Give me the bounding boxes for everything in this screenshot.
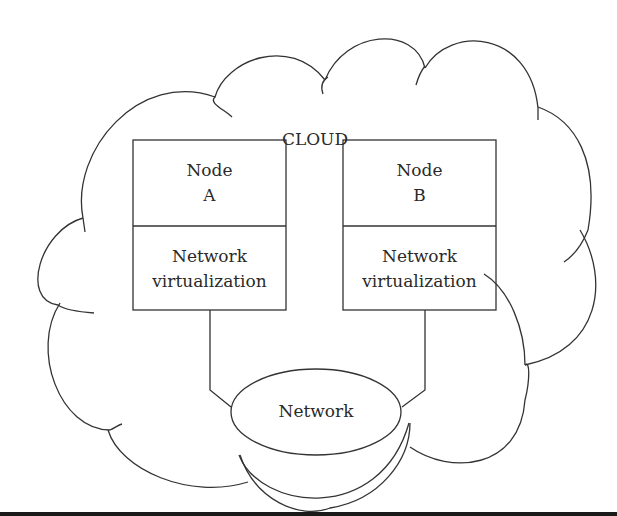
node-a-layer-line1: Network (133, 244, 286, 269)
node-a-title-line2: A (133, 183, 286, 208)
cloud-bottom-bowl (239, 423, 409, 498)
node-a-virtualization-layer: Network virtualization (133, 244, 286, 294)
node-b-title-line2: B (343, 183, 496, 208)
node-b-virtualization-layer: Network virtualization (343, 244, 496, 294)
cloud-diagram (0, 0, 617, 516)
node-b-title: Node B (343, 158, 496, 208)
node-b-title-line1: Node (343, 158, 496, 183)
node-a-layer-line2: virtualization (133, 269, 286, 294)
bottom-border-bar (0, 512, 617, 516)
node-b-layer-line2: virtualization (343, 269, 496, 294)
node-b-layer-line1: Network (343, 244, 496, 269)
node-a-title: Node A (133, 158, 286, 208)
node-a-title-line1: Node (133, 158, 286, 183)
network-label: Network (246, 399, 386, 424)
cloud-label: CLOUD (270, 127, 360, 152)
cloud-shape (38, 39, 596, 512)
